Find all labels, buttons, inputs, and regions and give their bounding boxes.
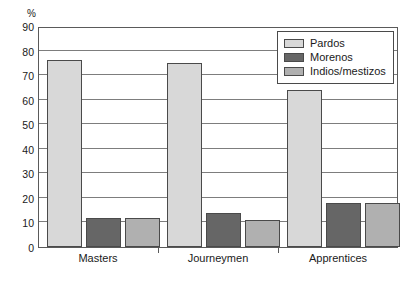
legend-swatch-icon <box>284 39 304 48</box>
bar <box>47 60 82 247</box>
y-axis-unit-label: % <box>27 9 36 19</box>
bar <box>206 213 241 247</box>
bar-chart: % 0102030405060708090 MastersJourneymenA… <box>0 0 410 281</box>
x-axis-category-label: Masters <box>38 252 158 264</box>
y-axis-tick-label: 70 <box>4 71 34 81</box>
y-axis-tick-label: 30 <box>4 169 34 179</box>
bar <box>167 63 202 247</box>
y-axis-tick-label: 80 <box>4 47 34 57</box>
bar <box>245 220 280 247</box>
bar <box>125 218 160 247</box>
y-axis-tick-label: 20 <box>4 194 34 204</box>
y-axis-tick-label: 50 <box>4 120 34 130</box>
legend-item: Indios/mestizos <box>284 64 386 78</box>
bar <box>365 203 400 247</box>
legend-swatch-icon <box>284 67 304 76</box>
bar <box>86 218 121 247</box>
legend-label: Morenos <box>310 51 353 63</box>
y-axis-tick-label: 40 <box>4 145 34 155</box>
chart-legend: PardosMorenosIndios/mestizos <box>277 31 394 84</box>
legend-label: Indios/mestizos <box>310 65 386 77</box>
x-axis-category-label: Journeymen <box>158 252 278 264</box>
y-axis-tick-label: 10 <box>4 218 34 228</box>
legend-item: Pardos <box>284 36 386 50</box>
x-axis-category-label: Apprentices <box>278 252 398 264</box>
y-axis-tick-label: 90 <box>4 22 34 32</box>
y-axis-tick-label: 0 <box>4 243 34 253</box>
legend-label: Pardos <box>310 37 345 49</box>
bar <box>287 90 322 247</box>
y-axis-tick-label: 60 <box>4 96 34 106</box>
legend-swatch-icon <box>284 53 304 62</box>
bar-group <box>167 28 280 247</box>
bar-group <box>47 28 160 247</box>
bar <box>326 203 361 247</box>
legend-item: Morenos <box>284 50 386 64</box>
